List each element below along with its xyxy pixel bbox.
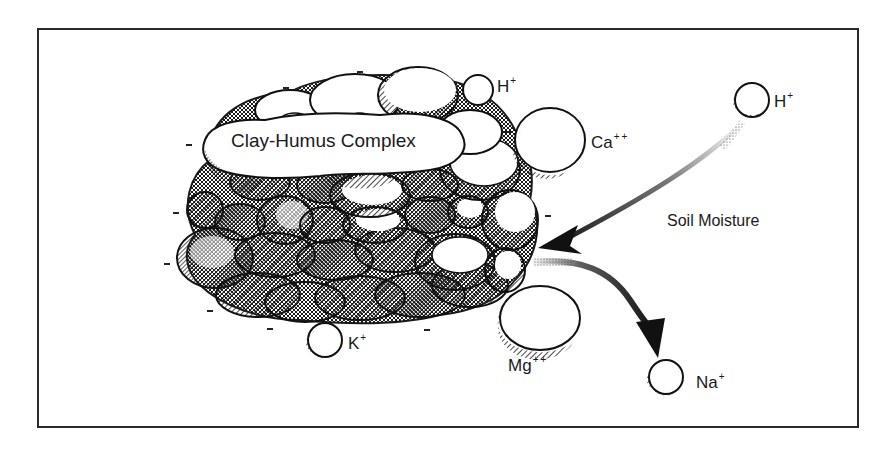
ion-na-label: Na+: [696, 372, 727, 391]
ion-charge: +: [510, 75, 518, 86]
soil-moisture-label: Soil Moisture: [667, 213, 759, 229]
ion-symbol: H: [774, 92, 786, 111]
ion-mg-label: Mg++: [508, 355, 548, 374]
ion-ca-label: Ca++: [591, 132, 629, 151]
ion-k-label: K+: [348, 333, 368, 352]
ion-symbol: Ca: [591, 133, 613, 152]
ion-charge: +: [719, 371, 727, 382]
ion-charge: ++: [614, 131, 630, 142]
ion-mg-sphere: [498, 286, 580, 360]
clay-humus-complex: [177, 67, 538, 323]
ion-h-top-sphere: [463, 75, 493, 106]
ion-h-right-label: H+: [774, 91, 795, 110]
negative-charge-marker: [545, 215, 551, 217]
negative-charge-marker: [283, 87, 289, 89]
ion-symbol: Na: [696, 373, 718, 392]
ion-charge: ++: [533, 354, 549, 365]
ion-symbol: Mg: [508, 356, 532, 375]
negative-charge-marker: [207, 310, 213, 312]
ion-symbol: H: [497, 77, 509, 96]
complex-label: Clay-Humus Complex: [231, 131, 416, 150]
ion-h-right-sphere: [733, 83, 769, 117]
negative-charge-marker: [173, 212, 179, 214]
ion-ca-sphere: [513, 108, 585, 179]
negative-charge-marker: [186, 144, 192, 146]
ion-h-top-label: H+: [497, 76, 518, 95]
negative-charge-marker: [357, 71, 363, 73]
negative-charge-marker: [267, 328, 273, 330]
ion-symbol: K: [348, 334, 359, 353]
ion-charge: +: [360, 332, 368, 343]
ion-k-sphere: [306, 323, 342, 358]
negative-charge-marker: [164, 263, 170, 265]
negative-charge-marker: [505, 131, 511, 133]
ion-charge: +: [787, 90, 795, 101]
negative-charge-marker: [424, 329, 430, 331]
ion-na-sphere: [647, 360, 683, 395]
